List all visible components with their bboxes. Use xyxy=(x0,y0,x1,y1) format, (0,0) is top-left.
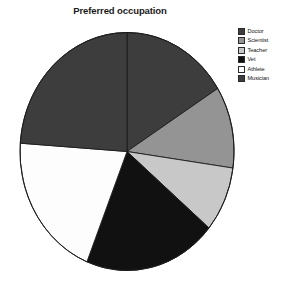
legend-label-teacher: Teacher xyxy=(248,47,268,54)
legend-item-teacher[interactable]: Teacher xyxy=(238,46,296,54)
pie-slice-musician[interactable] xyxy=(20,33,127,152)
legend-item-athlete[interactable]: Athlete xyxy=(238,65,296,73)
legend-swatch-doctor xyxy=(238,28,245,35)
legend-label-athlete: Athlete xyxy=(248,66,265,73)
legend-swatch-musician xyxy=(238,75,245,82)
chart-figure: Preferred occupation Doctor Scientist Te… xyxy=(0,0,298,285)
legend-swatch-teacher xyxy=(238,47,245,54)
chart-title: Preferred occupation xyxy=(0,5,240,16)
legend-label-vet: Vet xyxy=(248,56,256,63)
legend-swatch-athlete xyxy=(238,66,245,73)
legend-item-doctor[interactable]: Doctor xyxy=(238,27,296,35)
legend-item-musician[interactable]: Musician xyxy=(238,75,296,83)
legend-swatch-vet xyxy=(238,56,245,63)
legend-label-musician: Musician xyxy=(248,75,270,82)
legend-item-vet[interactable]: Vet xyxy=(238,56,296,64)
pie-plot-area xyxy=(19,32,235,272)
legend-label-doctor: Doctor xyxy=(248,27,264,34)
legend-item-scientist[interactable]: Scientist xyxy=(238,37,296,45)
legend-swatch-scientist xyxy=(238,37,245,44)
legend: Doctor Scientist Teacher Vet Athlete Mus… xyxy=(238,27,296,83)
legend-label-scientist: Scientist xyxy=(248,37,269,44)
pie-slice-group xyxy=(20,33,234,271)
pie-chart-svg xyxy=(19,32,235,272)
